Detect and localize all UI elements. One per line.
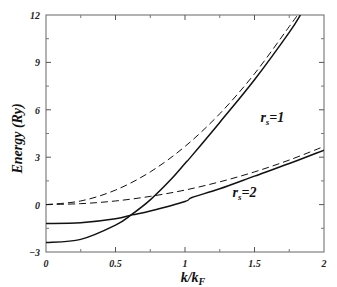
chart: 00.511.52−3036912rs=1rs=2k/kFEnergy (Ry) [0, 0, 337, 287]
series-line [46, 146, 324, 204]
series-annotation: rs=1 [260, 110, 284, 127]
y-tick-label: 6 [35, 105, 40, 116]
series-annotation: rs=2 [233, 185, 257, 202]
x-axis-label: k/kF [181, 270, 206, 287]
plot-frame [46, 15, 324, 252]
x-tick-label: 1.5 [248, 258, 261, 269]
y-tick-label: 0 [35, 200, 40, 211]
y-tick-label: −3 [29, 247, 40, 258]
x-tick-label: 0 [44, 258, 49, 269]
y-tick-label: 3 [34, 152, 40, 163]
x-tick-label: 1 [183, 258, 188, 269]
series-line [46, 150, 324, 223]
y-axis-label: Energy (Ry) [10, 103, 26, 174]
series-line [46, 15, 300, 243]
y-tick-label: 9 [35, 57, 40, 68]
x-tick-label: 0.5 [109, 258, 122, 269]
x-tick-label: 2 [321, 258, 327, 269]
y-tick-label: 12 [30, 10, 40, 21]
